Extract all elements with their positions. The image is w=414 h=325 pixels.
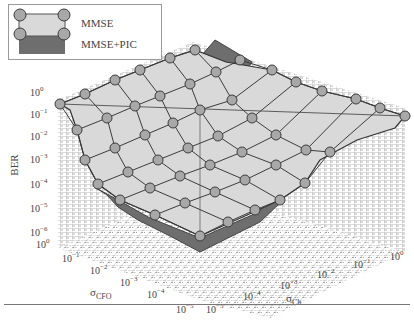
z-tick-4: 10−4 xyxy=(30,177,48,190)
cfo-axis-label: σCFO xyxy=(90,286,112,301)
z-tick-2: 10−2 xyxy=(30,129,48,142)
legend-marker-icon xyxy=(58,28,70,40)
cfo-tick-1: 10−1 xyxy=(62,251,80,264)
ch-tick-5: 100 xyxy=(390,249,404,262)
cfo-tick-4: 10−4 xyxy=(147,287,165,300)
legend-label-mmse: MMSE xyxy=(81,17,113,29)
cfo-tick-3: 10−3 xyxy=(120,275,138,288)
legend-label-mmse-pic: MMSE+PIC xyxy=(81,38,137,50)
legend-marker-icon xyxy=(14,9,26,21)
z-axis-ticks: 100 10−1 10−2 10−3 10−4 10−5 10−6 xyxy=(30,85,48,238)
legend-marker-icon xyxy=(14,28,26,40)
z-tick-1: 10−1 xyxy=(30,107,48,120)
legend-swatches xyxy=(11,6,71,58)
cfo-tick-0: 100 xyxy=(36,237,50,250)
legend: MMSE MMSE+PIC xyxy=(8,4,162,60)
bottom-rule xyxy=(4,304,410,305)
z-axis-label: BER xyxy=(8,154,20,176)
legend-marker-icon xyxy=(58,9,70,21)
legend-swatch-mmse-pic xyxy=(19,34,65,54)
z-tick-0: 100 xyxy=(30,85,44,98)
cfo-tick-2: 10−2 xyxy=(90,263,108,276)
z-tick-3: 10−3 xyxy=(30,152,48,165)
z-tick-5: 10−5 xyxy=(30,201,48,214)
